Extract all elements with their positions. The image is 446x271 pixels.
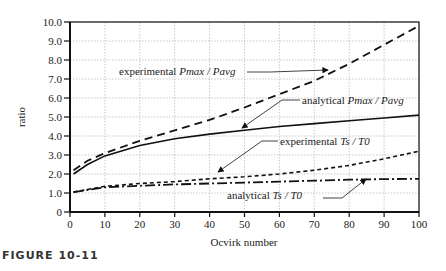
annotation-label-0: experimental Pmax / Pavg (119, 65, 236, 77)
x-tick-label: 40 (204, 218, 216, 230)
x-tick-label: 80 (344, 218, 356, 230)
y-tick-label: 4.0 (48, 130, 62, 142)
y-tick-label: 9.0 (48, 35, 62, 47)
annotation-arrow-1 (242, 100, 282, 128)
x-tick-label: 90 (379, 218, 391, 230)
x-tick-label: 10 (99, 218, 111, 230)
annotations: experimental Pmax / Pavganalytical Pmax … (119, 65, 404, 201)
y-tick-label: 0 (57, 206, 63, 218)
x-tick-label: 20 (134, 218, 146, 230)
x-tick-label: 60 (274, 218, 286, 230)
x-tick-label: 50 (239, 218, 251, 230)
figure-caption: FIGURE 10-11 (2, 249, 99, 262)
annotation-label-1: analytical Pmax / Pavg (302, 94, 404, 106)
line-chart: 010203040506070809010001.02.03.04.05.06.… (0, 0, 446, 271)
y-tick-label: 7.0 (48, 73, 62, 85)
annotation-label-2: experimental Ts / T0 (280, 135, 370, 147)
annotation-arrow-0 (270, 70, 328, 72)
x-tick-label: 30 (169, 218, 181, 230)
y-tick-label: 8.0 (48, 54, 62, 66)
annotation-arrow-3 (342, 179, 366, 198)
data-series (74, 26, 420, 192)
y-tick-label: 6.0 (48, 92, 62, 104)
x-tick-label: 100 (411, 218, 428, 230)
y-tick-label: 10.0 (43, 16, 63, 28)
annotation-label-3: analytical Ts / T0 (227, 189, 303, 201)
x-tick-label: 0 (67, 218, 73, 230)
y-tick-label: 3.0 (48, 149, 62, 161)
y-axis-label: ratio (15, 106, 27, 127)
x-axis-label: Ocvirk number (211, 236, 278, 248)
y-tick-label: 1.0 (48, 187, 62, 199)
x-tick-label: 70 (309, 218, 321, 230)
y-tick-label: 2.0 (48, 168, 62, 180)
y-tick-label: 5.0 (48, 111, 62, 123)
series-line-2 (74, 151, 420, 192)
annotation-arrow-2 (218, 141, 262, 172)
